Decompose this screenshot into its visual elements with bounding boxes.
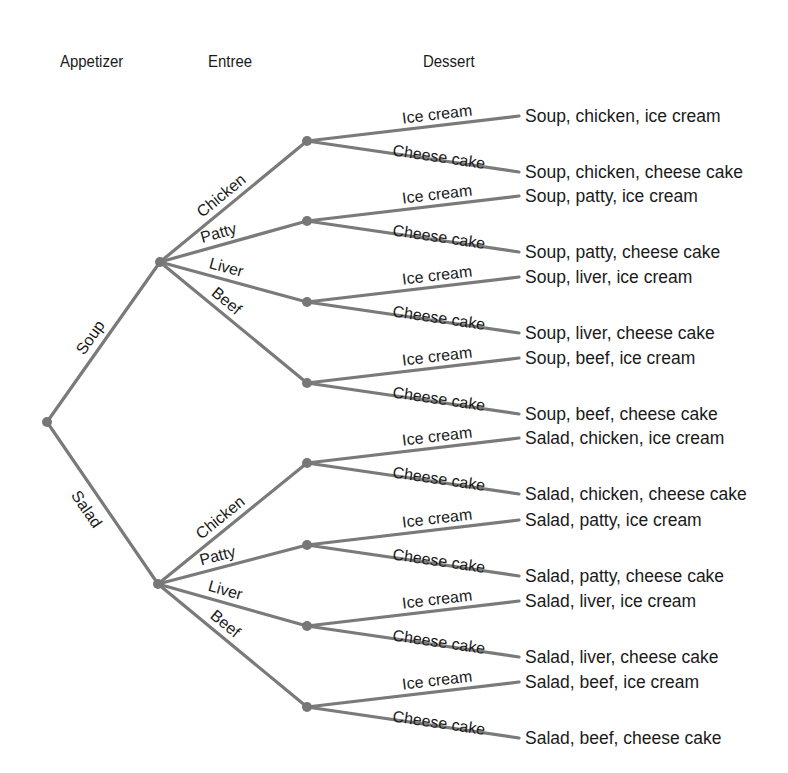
entree-node: [302, 458, 312, 468]
outcome-label: Soup, patty, cheese cake: [525, 242, 720, 262]
entree-node: [302, 540, 312, 550]
outcome-label: Soup, liver, cheese cake: [525, 323, 715, 343]
edge-salad: [47, 422, 158, 584]
outcome-label: Salad, beef, ice cream: [525, 672, 699, 692]
entree-node: [302, 621, 312, 631]
outcome-label: Salad, patty, cheese cake: [525, 566, 724, 586]
outcome-label: Soup, beef, ice cream: [525, 348, 695, 368]
outcome-label: Soup, patty, ice cream: [525, 186, 698, 206]
edge-salad-beef: [158, 584, 307, 707]
edge-label-soup: Soup: [72, 317, 108, 357]
edge-label-cheese-cake: Cheese cake: [392, 546, 487, 576]
edge-label-cheese-cake: Cheese cake: [392, 464, 487, 494]
edge-label-beef: Beef: [207, 606, 244, 640]
edge-label-cheese-cake: Cheese cake: [392, 303, 487, 333]
edge-label-salad: Salad: [68, 487, 105, 530]
entree-node: [302, 702, 312, 712]
edge-label-beef: Beef: [209, 284, 246, 318]
outcome-label: Salad, beef, cheese cake: [525, 728, 722, 748]
appetizer-node: [153, 579, 163, 589]
edge-soup-beef: [160, 262, 307, 383]
root-node: [42, 417, 52, 427]
outcome-label: Soup, beef, cheese cake: [525, 404, 718, 424]
edge-label-cheese-cake: Cheese cake: [392, 627, 487, 657]
edge-soup-chicken: [160, 141, 307, 262]
outcome-label: Salad, liver, cheese cake: [525, 647, 719, 667]
entree-node: [302, 136, 312, 146]
entree-node: [302, 297, 312, 307]
outcome-label: Soup, chicken, cheese cake: [525, 162, 743, 182]
edge-label-cheese-cake: Cheese cake: [392, 222, 487, 252]
edge-label-cheese-cake: Cheese cake: [392, 384, 487, 414]
entree-node: [302, 378, 312, 388]
edge-label-cheese-cake: Cheese cake: [392, 708, 487, 738]
outcome-label: Salad, liver, ice cream: [525, 591, 696, 611]
tree-diagram: SoupChickenIce creamSoup, chicken, ice c…: [0, 0, 788, 773]
outcome-label: Salad, chicken, cheese cake: [525, 484, 747, 504]
edge-soup: [47, 262, 160, 422]
outcome-label: Salad, chicken, ice cream: [525, 428, 724, 448]
entree-node: [302, 216, 312, 226]
outcome-label: Soup, chicken, ice cream: [525, 106, 721, 126]
edge-label-cheese-cake: Cheese cake: [392, 142, 487, 172]
outcome-label: Soup, liver, ice cream: [525, 267, 692, 287]
appetizer-node: [155, 257, 165, 267]
outcome-label: Salad, patty, ice cream: [525, 510, 702, 530]
